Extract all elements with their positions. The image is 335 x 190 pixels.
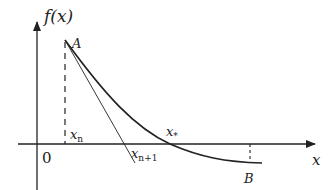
y-axis-label: f(x) bbox=[42, 6, 73, 26]
newton-diagram: f(x) x 0 A B xn xn+1 x* bbox=[0, 0, 335, 190]
point-b-label: B bbox=[243, 171, 254, 186]
origin-label: 0 bbox=[42, 149, 52, 167]
x-star-label: x* bbox=[166, 124, 178, 141]
x-axis-label: x bbox=[312, 151, 321, 169]
x-n-label: xn bbox=[70, 127, 83, 144]
diagram-canvas: f(x) x 0 A B xn xn+1 x* bbox=[0, 0, 335, 190]
point-a-label: A bbox=[71, 36, 81, 51]
x-n-plus-1-label: xn+1 bbox=[131, 146, 157, 163]
